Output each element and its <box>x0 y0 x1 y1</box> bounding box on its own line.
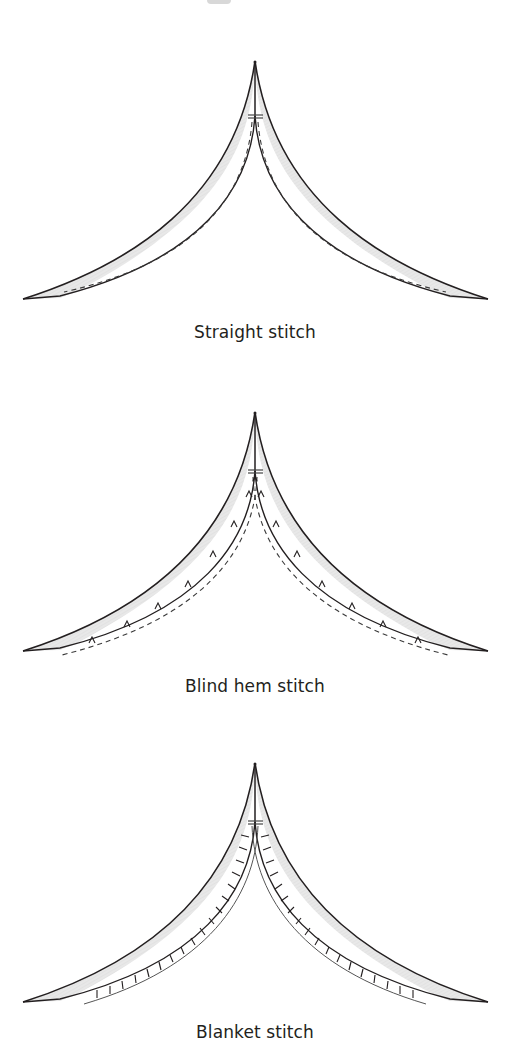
caption-blind-hem-stitch: Blind hem stitch <box>0 676 510 696</box>
straight-stitch-diagram <box>0 0 510 350</box>
blanket-stitches <box>97 835 413 998</box>
blanket-stitch-diagram <box>0 702 510 1045</box>
straight-stitch-line <box>64 122 446 292</box>
panel-straight-stitch: Straight stitch <box>0 0 510 350</box>
panel-blanket-stitch: Blanket stitch <box>0 702 510 1045</box>
blind-hem-stitch-diagram <box>0 351 510 701</box>
caption-blanket-stitch: Blanket stitch <box>0 1022 510 1042</box>
caption-straight-stitch: Straight stitch <box>0 322 510 342</box>
panel-blind-hem-stitch: Blind hem stitch <box>0 351 510 701</box>
blind-hem-stitches <box>89 476 421 643</box>
fabric-left-fold <box>23 61 255 299</box>
fabric-right-fold <box>255 61 488 299</box>
